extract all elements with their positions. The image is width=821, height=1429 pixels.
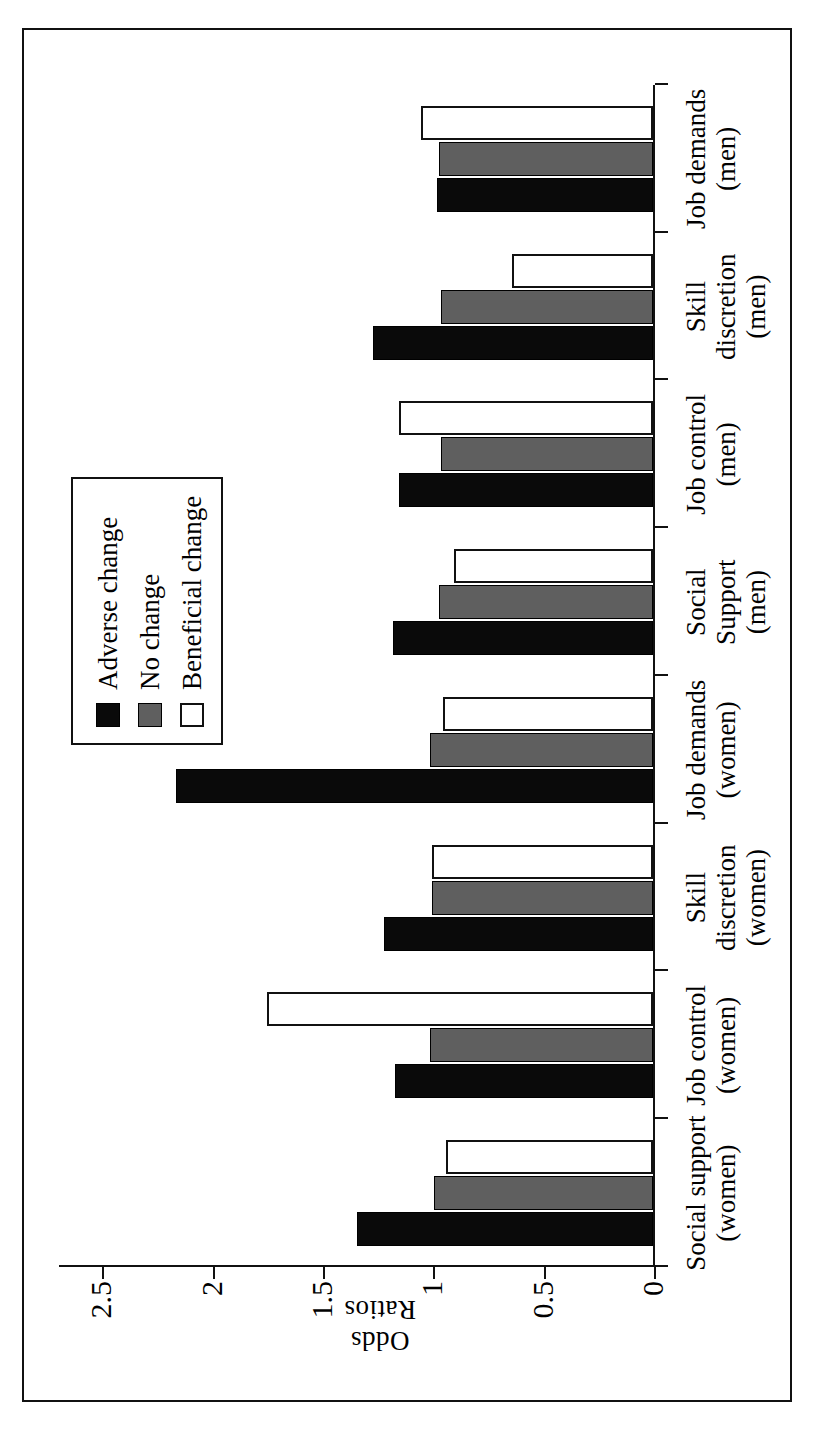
legend: Adverse change No change Beneficial chan… — [71, 477, 223, 745]
value-axis-tick — [213, 1267, 215, 1279]
bar-group — [57, 85, 653, 233]
bar-adverse — [393, 621, 653, 655]
bar-nochange — [439, 585, 653, 619]
bar-beneficial — [399, 401, 653, 435]
bar-beneficial — [512, 254, 653, 288]
value-axis-tick — [323, 1267, 325, 1279]
bar-adverse — [437, 178, 653, 212]
bar-adverse — [399, 473, 653, 507]
value-axis-tick — [433, 1267, 435, 1279]
legend-swatch-beneficial-icon — [180, 703, 204, 727]
legend-label-beneficial: Beneficial change — [179, 496, 206, 690]
bar-adverse — [395, 1064, 653, 1098]
category-axis-tick — [655, 379, 668, 381]
legend-item: Beneficial change — [171, 495, 213, 727]
bar-beneficial — [454, 549, 653, 583]
value-axis-tick — [102, 1267, 104, 1279]
legend-swatch-nochange-icon — [138, 703, 162, 727]
legend-item: Adverse change — [87, 495, 129, 727]
chart-stage: Odds Ratios 00.511.522.5 Social support … — [37, 45, 777, 1385]
category-label: Job demands (men) — [681, 64, 741, 254]
bar-nochange — [434, 1176, 653, 1210]
bar-group — [57, 824, 653, 972]
value-axis-tick — [544, 1267, 546, 1279]
bar-nochange — [430, 1028, 653, 1062]
category-axis-tick — [655, 526, 668, 528]
category-axis-tick — [655, 970, 668, 972]
bar-adverse — [384, 917, 653, 951]
bar-nochange — [441, 437, 653, 471]
legend-item: No change — [129, 495, 171, 727]
bar-group — [57, 233, 653, 381]
category-axis-tick — [655, 83, 668, 85]
category-axis-tick — [655, 1117, 668, 1119]
bar-nochange — [432, 881, 653, 915]
bar-adverse — [176, 769, 653, 803]
category-axis-tick — [655, 674, 668, 676]
legend-swatch-adverse-icon — [96, 703, 120, 727]
value-axis-label: 0.5 — [528, 1281, 558, 1337]
bar-nochange — [430, 733, 653, 767]
bar-group — [57, 1119, 653, 1267]
bar-nochange — [439, 142, 653, 176]
legend-label-nochange: No change — [137, 574, 164, 690]
value-axis-tick — [654, 1267, 656, 1279]
value-axis-label: 1.5 — [307, 1281, 337, 1337]
bar-beneficial — [421, 106, 653, 140]
bar-nochange — [441, 290, 653, 324]
bar-beneficial — [267, 992, 653, 1026]
bar-group — [57, 972, 653, 1120]
value-axis-label: 1 — [417, 1281, 447, 1337]
category-axis-tick — [655, 231, 668, 233]
value-axis-label: 0 — [638, 1281, 668, 1337]
bar-adverse — [373, 326, 653, 360]
category-axis-tick — [655, 1265, 668, 1267]
legend-label-adverse: Adverse change — [95, 517, 122, 690]
figure-page: Odds Ratios 00.511.522.5 Social support … — [0, 0, 821, 1429]
bar-beneficial — [432, 845, 653, 879]
value-axis-label: 2.5 — [86, 1281, 116, 1337]
category-axis-line — [653, 85, 655, 1267]
bar-adverse — [357, 1212, 653, 1246]
value-axis-label: 2 — [197, 1281, 227, 1337]
category-axis-tick — [655, 822, 668, 824]
bar-beneficial — [443, 697, 653, 731]
bar-beneficial — [446, 1140, 653, 1174]
figure-border: Odds Ratios 00.511.522.5 Social support … — [22, 28, 792, 1402]
